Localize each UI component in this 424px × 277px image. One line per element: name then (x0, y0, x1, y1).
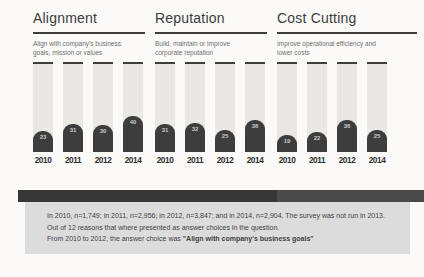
bar-fill: 19 (277, 135, 297, 152)
bar-value-label: 36 (337, 123, 357, 129)
year-label: 2011 (64, 155, 82, 165)
year-label: 2011 (186, 155, 204, 165)
bar-fill: 36 (337, 120, 357, 152)
bar-value-label: 23 (33, 134, 53, 140)
footnote-line-2: Out of 12 reasons that where presented a… (47, 222, 400, 234)
divider-ribbon (18, 190, 424, 202)
section-subtitle: Improve operational efficiency and lower… (277, 39, 381, 56)
divider-ribbon-left (18, 190, 277, 202)
title-underline (33, 32, 145, 34)
year-label: 2014 (246, 155, 264, 165)
section-subtitle: Align with company's business goals, mis… (33, 39, 137, 56)
bar-track: 30 (93, 62, 113, 152)
bar-2014: 25 2014 (367, 62, 387, 165)
bar-value-label: 31 (63, 127, 83, 133)
year-label: 2010 (156, 155, 174, 165)
section-title: Cost Cutting (277, 10, 387, 26)
bar-value-label: 25 (215, 133, 235, 139)
bar-value-label: 19 (277, 138, 297, 144)
year-label: 2012 (338, 155, 356, 165)
bar-cap (185, 62, 205, 64)
footnote-line-3-bold: "Align with company's business goals" (183, 235, 314, 242)
bar-2011: 31 2011 (63, 62, 83, 165)
bar-cap (337, 62, 357, 64)
bar-cap (63, 62, 83, 64)
footnote-line-3: From 2010 to 2012, the answer choice was… (47, 233, 400, 245)
bar-2010: 31 2010 (155, 62, 175, 165)
bar-cap (33, 62, 53, 64)
bar-fill: 22 (307, 132, 327, 152)
bar-fill: 23 (33, 131, 53, 152)
bar-cap (367, 62, 387, 64)
survey-infographic: Alignment Align with company's business … (0, 0, 424, 277)
bar-fill: 25 (367, 130, 387, 153)
bar-track: 19 (277, 62, 297, 152)
bar-value-label: 36 (245, 123, 265, 129)
bar-2011: 22 2011 (307, 62, 327, 165)
bar-2010: 23 2010 (33, 62, 53, 165)
bar-track: 25 (215, 62, 235, 152)
bar-fill: 25 (215, 130, 235, 153)
bar-fill: 32 (185, 123, 205, 152)
bar-cap (93, 62, 113, 64)
bar-track: 23 (33, 62, 53, 152)
bar-track: 36 (245, 62, 265, 152)
bar-track: 32 (185, 62, 205, 152)
year-label: 2010 (34, 155, 52, 165)
bar-track: 25 (367, 62, 387, 152)
footnote-line-1: In 2010, n=1,749; in 2011, n=2,956; in 2… (47, 210, 400, 222)
bar-value-label: 31 (155, 127, 175, 133)
year-label: 2012 (94, 155, 112, 165)
bar-fill: 31 (155, 124, 175, 152)
year-label: 2011 (308, 155, 326, 165)
bar-cap (245, 62, 265, 64)
year-label: 2010 (278, 155, 296, 165)
title-underline (277, 32, 417, 34)
bar-2014: 40 2014 (123, 62, 143, 165)
section-cost-cutting: Cost Cutting Improve operational efficie… (277, 10, 387, 165)
bar-track: 40 (123, 62, 143, 152)
bar-2011: 32 2011 (185, 62, 205, 165)
bar-fill: 31 (63, 124, 83, 152)
footnote-line-3-prefix: From 2010 to 2012, the answer choice was (47, 235, 183, 242)
bar-fill: 40 (123, 116, 143, 152)
bar-2012: 30 2012 (93, 62, 113, 165)
bar-group: 19 2010 22 2011 (277, 62, 387, 165)
year-label: 2014 (368, 155, 386, 165)
year-label: 2014 (124, 155, 142, 165)
bar-2010: 19 2010 (277, 62, 297, 165)
bar-track: 36 (337, 62, 357, 152)
bar-fill: 36 (245, 120, 265, 152)
footnote-panel: In 2010, n=1,749; in 2011, n=2,956; in 2… (25, 202, 410, 254)
section-subtitle: Build, maintain or improve corporate rep… (155, 39, 259, 56)
bar-cap (277, 62, 297, 64)
section-reputation: Reputation Build, maintain or improve co… (155, 10, 265, 165)
chart-columns: Alignment Align with company's business … (33, 10, 387, 165)
section-title: Reputation (155, 10, 265, 26)
divider-ribbon-right (277, 190, 424, 202)
bar-group: 31 2010 32 2011 (155, 62, 265, 165)
bar-value-label: 40 (123, 119, 143, 125)
year-label: 2012 (216, 155, 234, 165)
bar-value-label: 25 (367, 133, 387, 139)
bar-group: 23 2010 31 2011 (33, 62, 143, 165)
bar-track: 31 (155, 62, 175, 152)
bar-track: 31 (63, 62, 83, 152)
bar-cap (155, 62, 175, 64)
section-alignment: Alignment Align with company's business … (33, 10, 143, 165)
bar-2012: 25 2012 (215, 62, 235, 165)
bar-value-label: 22 (307, 135, 327, 141)
title-underline (155, 32, 267, 34)
bar-2014: 36 2014 (245, 62, 265, 165)
bar-fill: 30 (93, 125, 113, 152)
bar-value-label: 32 (185, 126, 205, 132)
bar-2012: 36 2012 (337, 62, 357, 165)
bar-track: 22 (307, 62, 327, 152)
bar-cap (307, 62, 327, 64)
section-title: Alignment (33, 10, 143, 26)
bar-cap (215, 62, 235, 64)
bar-cap (123, 62, 143, 64)
bar-value-label: 30 (93, 128, 113, 134)
